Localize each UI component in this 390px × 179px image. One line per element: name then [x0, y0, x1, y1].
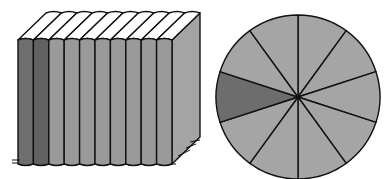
book-spine — [95, 39, 110, 166]
illustration-canvas — [0, 0, 390, 179]
pie-circle — [216, 15, 380, 179]
book-stack — [12, 12, 200, 166]
book-spine — [80, 39, 95, 166]
book-spine — [126, 39, 141, 166]
book-spine — [18, 39, 33, 166]
book-spine — [49, 39, 64, 166]
fraction-illustration — [0, 0, 390, 179]
book-spine — [64, 39, 79, 166]
book-spine — [33, 39, 48, 166]
book-spine — [141, 39, 156, 166]
book-spine — [110, 39, 125, 166]
book-spine — [157, 39, 172, 166]
